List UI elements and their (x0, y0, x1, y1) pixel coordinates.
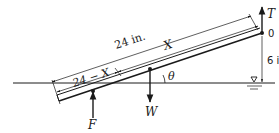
diagram-canvas: 24 in. X 24 − X 0 T 6 in. W F θ (0, 0, 279, 133)
upper-segment-label: X (161, 37, 175, 53)
tension-label: T (267, 7, 276, 21)
weight-arrow (148, 67, 152, 102)
angle-label: θ (168, 70, 175, 83)
height-label: 6 in. (267, 55, 279, 66)
total-length-label: 24 in. (113, 30, 147, 52)
weight-label: W (145, 105, 159, 119)
total-length-dimension (52, 16, 251, 82)
inclined-bar (57, 28, 262, 101)
buoyant-force-label: F (87, 118, 97, 132)
buoyant-force-arrow (91, 89, 95, 118)
angle-arc (163, 75, 165, 83)
pivot-label: 0 (268, 28, 274, 39)
lower-end-extension-line (52, 80, 60, 104)
